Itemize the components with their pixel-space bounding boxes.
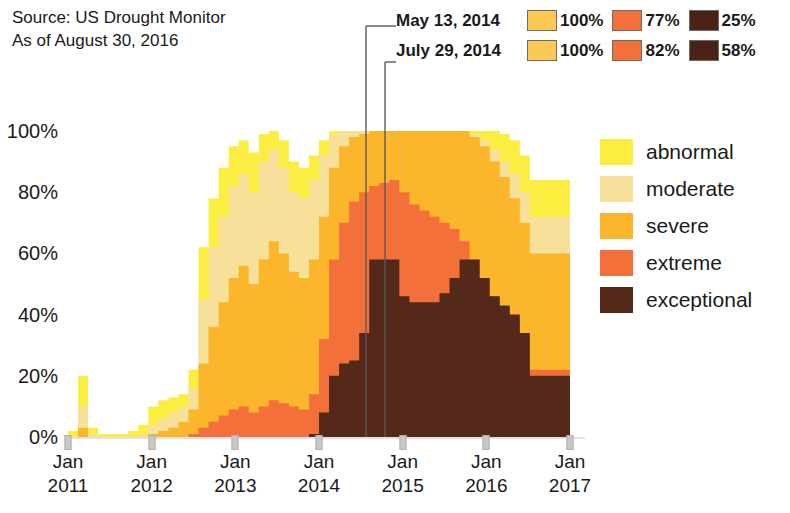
x-axis-tick: [483, 435, 490, 450]
legend-swatch-severe-icon: [600, 213, 633, 239]
x-tick-month: Jan: [446, 450, 526, 474]
x-tick-month: Jan: [363, 450, 443, 474]
x-axis-tick-label: Jan2012: [112, 450, 192, 498]
legend-label: severe: [646, 214, 709, 238]
legend-swatch-abnormal-icon: [600, 139, 633, 165]
x-axis-tick-label: Jan2013: [195, 450, 275, 498]
legend-label: moderate: [646, 177, 735, 201]
x-tick-year: 2016: [446, 474, 526, 498]
x-axis-tick-label: Jan2017: [530, 450, 610, 498]
x-axis-tick-label: Jan2014: [279, 450, 359, 498]
legend-item-extreme[interactable]: extreme: [600, 244, 752, 281]
x-axis-tick-label: Jan2011: [28, 450, 108, 498]
x-axis-tick: [567, 435, 574, 450]
legend-swatch-exceptional-icon: [600, 287, 633, 313]
x-tick-year: 2017: [530, 474, 610, 498]
x-tick-year: 2014: [279, 474, 359, 498]
x-axis-tick: [316, 435, 323, 450]
x-axis-tick: [399, 435, 406, 450]
legend-label: exceptional: [646, 288, 752, 312]
x-tick-month: Jan: [530, 450, 610, 474]
x-axis-tick: [65, 435, 72, 450]
x-tick-year: 2011: [28, 474, 108, 498]
legend-swatch-extreme-icon: [600, 250, 633, 276]
x-axis-tick: [232, 435, 239, 450]
legend-item-moderate[interactable]: moderate: [600, 170, 752, 207]
x-axis-tick: [148, 435, 155, 450]
x-tick-month: Jan: [28, 450, 108, 474]
legend-swatch-moderate-icon: [600, 176, 633, 202]
x-tick-month: Jan: [112, 450, 192, 474]
legend-item-exceptional[interactable]: exceptional: [600, 281, 752, 318]
legend-item-abnormal[interactable]: abnormal: [600, 133, 752, 170]
x-tick-year: 2012: [112, 474, 192, 498]
legend-item-severe[interactable]: severe: [600, 207, 752, 244]
category-legend: abnormalmoderatesevereextremeexceptional: [600, 133, 752, 318]
x-tick-month: Jan: [195, 450, 275, 474]
legend-label: abnormal: [646, 140, 734, 164]
x-axis-tick-label: Jan2016: [446, 450, 526, 498]
x-axis-tick-label: Jan2015: [363, 450, 443, 498]
legend-label: extreme: [646, 251, 722, 275]
x-tick-year: 2015: [363, 474, 443, 498]
x-tick-year: 2013: [195, 474, 275, 498]
x-tick-month: Jan: [279, 450, 359, 474]
